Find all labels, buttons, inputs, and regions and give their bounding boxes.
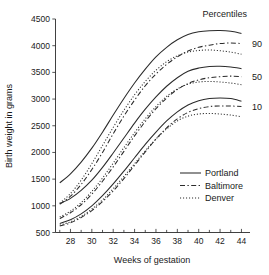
- percentile-label-50: 50: [252, 72, 262, 82]
- y-tick-label: 3000: [31, 94, 50, 104]
- y-tick-label: 1000: [31, 201, 50, 211]
- x-tick-label: 40: [194, 236, 204, 246]
- y-tick-label: 1500: [31, 174, 50, 184]
- y-tick-label: 2500: [31, 121, 50, 131]
- y-tick-label: 2000: [31, 147, 50, 157]
- x-tick-label: 30: [87, 236, 97, 246]
- y-axis-tick-labels: 50010001500200025003000350040004500: [31, 14, 50, 238]
- percentile-label-10: 10: [252, 102, 262, 112]
- percentile-label-90: 90: [252, 39, 262, 49]
- y-tick-label: 500: [36, 228, 50, 238]
- y-axis-title: Birth weight in grams: [4, 83, 14, 168]
- percentile-group-labels: 905010: [252, 39, 262, 112]
- curve-baltimore-p10: [60, 106, 242, 226]
- curve-portland-p90: [60, 30, 242, 182]
- y-axis-ticks: [52, 19, 55, 233]
- y-tick-label: 3500: [31, 67, 50, 77]
- legend-label-denver: Denver: [205, 193, 234, 203]
- x-tick-label: 42: [215, 236, 225, 246]
- x-axis-tick-labels: 283032343638404244: [66, 236, 247, 246]
- x-tick-label: 28: [66, 236, 76, 246]
- x-axis-title: Weeks of gestation: [114, 255, 190, 265]
- x-tick-label: 38: [173, 236, 183, 246]
- x-tick-label: 36: [151, 236, 161, 246]
- birth-weight-percentile-chart: 50010001500200025003000350040004500 2830…: [0, 0, 269, 275]
- curve-portland-p10: [60, 98, 242, 223]
- percentiles-group-title: Percentiles: [202, 9, 247, 19]
- legend-label-portland: Portland: [205, 168, 239, 178]
- x-axis-ticks: [60, 229, 242, 233]
- x-tick-label: 34: [130, 236, 140, 246]
- x-tick-label: 44: [237, 236, 247, 246]
- y-tick-label: 4500: [31, 14, 50, 24]
- y-tick-label: 4000: [31, 41, 50, 51]
- legend-label-baltimore: Baltimore: [205, 181, 243, 191]
- x-tick-label: 32: [108, 236, 118, 246]
- legend: PortlandBaltimoreDenver: [180, 168, 243, 203]
